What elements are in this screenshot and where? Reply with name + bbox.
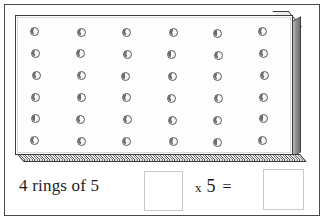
ring-icon	[214, 94, 223, 103]
pegboard-bottom-bevel	[17, 154, 307, 162]
ring-icon	[76, 49, 85, 58]
ring-icon	[31, 49, 40, 58]
ring-icon	[213, 116, 222, 125]
ring-icon	[167, 50, 176, 59]
first-answer-box[interactable]	[144, 171, 183, 211]
result-answer-box[interactable]	[263, 169, 304, 210]
ring-icon	[76, 115, 85, 124]
ring-icon	[77, 137, 86, 146]
ring-icon	[259, 93, 268, 102]
ring-icon	[169, 28, 178, 37]
prompt-label: 4 rings of 5	[19, 176, 99, 196]
ring-icon	[32, 71, 41, 80]
ring-icon	[77, 93, 86, 102]
ring-icon	[260, 71, 269, 80]
ring-icon	[123, 50, 132, 59]
ring-icon	[122, 137, 131, 146]
ring-icon	[168, 72, 177, 81]
equals-operator: =	[219, 178, 232, 195]
ring-icon	[77, 71, 86, 80]
ring-icon	[213, 72, 222, 81]
worksheet-frame: 4 rings of 5 x5=	[4, 4, 320, 216]
ring-icon	[30, 27, 39, 36]
ring-icon	[167, 94, 176, 103]
ring-icon	[122, 28, 131, 37]
ring-icon	[121, 72, 130, 81]
operator-expression: x5=	[195, 176, 232, 197]
multiplication-operator: x	[195, 180, 202, 195]
ring-icon	[122, 93, 131, 102]
ring-icon	[259, 114, 268, 123]
ring-pegboard	[15, 11, 307, 164]
pegboard-right-bevel	[292, 16, 301, 157]
ring-grid	[15, 15, 293, 155]
ring-icon	[213, 29, 222, 38]
ring-icon	[31, 93, 40, 102]
ring-icon	[123, 115, 132, 124]
ring-icon	[258, 27, 267, 36]
ring-icon	[30, 136, 39, 145]
operand-value: 5	[202, 176, 219, 196]
ring-icon	[77, 28, 86, 37]
ring-icon	[259, 49, 268, 58]
ring-icon	[258, 136, 267, 145]
ring-icon	[169, 137, 178, 146]
ring-icon	[168, 116, 177, 125]
answer-row: 4 rings of 5 x5=	[15, 168, 313, 214]
ring-icon	[213, 138, 222, 147]
ring-icon	[214, 51, 223, 60]
ring-icon	[31, 114, 40, 123]
